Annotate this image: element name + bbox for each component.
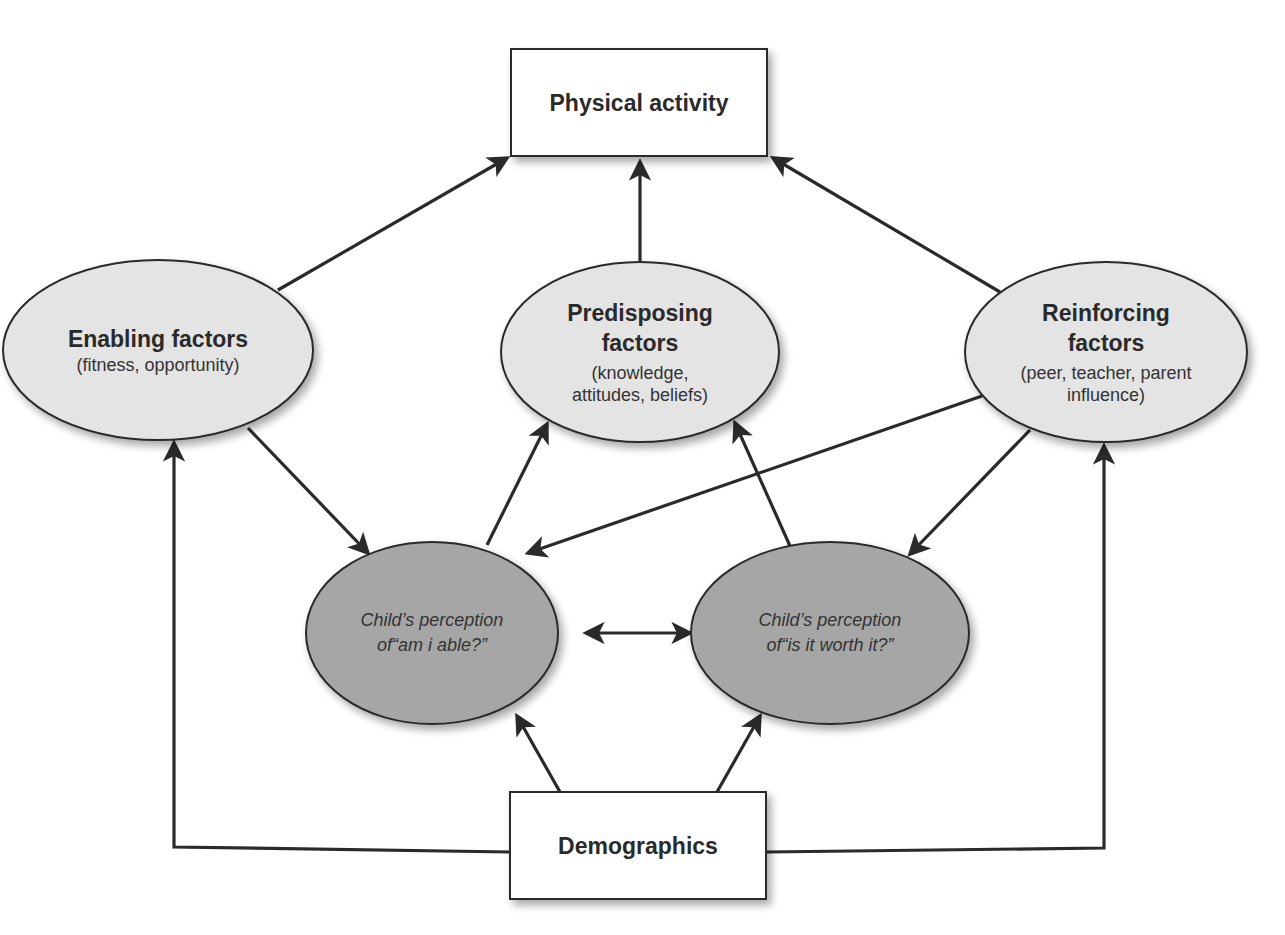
worth-perception-label: Child’s perception of“is it worth it?” bbox=[691, 542, 969, 724]
physical-activity-title: Physical activity bbox=[550, 88, 729, 118]
predisposing-title-line1: Predisposing bbox=[567, 298, 713, 328]
able-line1: Child’s perception bbox=[361, 608, 504, 633]
reinforcing-title-line1: Reinforcing bbox=[1042, 298, 1170, 328]
enabling-factors-title: Enabling factors bbox=[68, 324, 248, 354]
physical-activity-label: Physical activity bbox=[511, 49, 767, 156]
worth-line1: Child’s perception bbox=[759, 608, 902, 633]
predisposing-title-line2: factors bbox=[602, 328, 679, 358]
demographics-label: Demographics bbox=[510, 792, 766, 899]
reinforcing-subtitle-line1: (peer, teacher, parent bbox=[1020, 362, 1191, 384]
enabling-factors-label: Enabling factors (fitness, opportunity) bbox=[3, 260, 313, 440]
reinforcing-factors-label: Reinforcing factors (peer, teacher, pare… bbox=[965, 262, 1247, 442]
edge-demographics-to-worth bbox=[717, 716, 760, 792]
reinforcing-title-line2: factors bbox=[1068, 328, 1145, 358]
predisposing-subtitle-line2: attitudes, beliefs) bbox=[572, 384, 708, 406]
edge-demographics-to-able bbox=[517, 716, 560, 792]
edge-reinforcing-to-worth bbox=[910, 430, 1030, 554]
enabling-factors-subtitle: (fitness, opportunity) bbox=[76, 354, 239, 376]
worth-line2: of“is it worth it?” bbox=[766, 633, 893, 658]
edge-enabling-to-able bbox=[248, 428, 368, 553]
demographics-title: Demographics bbox=[558, 831, 718, 861]
edge-able-to-predisposing bbox=[487, 424, 547, 545]
predisposing-subtitle-line1: (knowledge, bbox=[591, 362, 688, 384]
able-perception-label: Child’s perception of“am i able?” bbox=[306, 542, 558, 724]
predisposing-factors-label: Predisposing factors (knowledge, attitud… bbox=[501, 262, 779, 442]
able-line2: of“am i able?” bbox=[377, 633, 487, 658]
reinforcing-subtitle-line2: influence) bbox=[1067, 384, 1145, 406]
